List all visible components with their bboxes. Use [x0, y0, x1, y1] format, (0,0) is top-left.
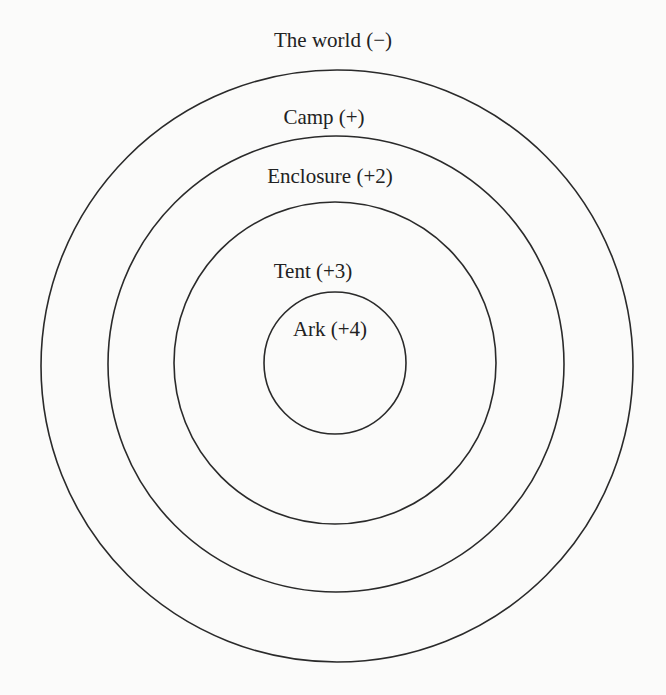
- label-enclosure: Enclosure (+2): [267, 164, 393, 189]
- ring-ark: [264, 292, 406, 434]
- ring-tent: [174, 202, 496, 524]
- label-ark: Ark (+4): [293, 317, 367, 342]
- ring-camp: [41, 70, 633, 662]
- label-tent: Tent (+3): [274, 259, 353, 284]
- label-the-world: The world (−): [274, 28, 392, 53]
- label-camp: Camp (+): [283, 105, 364, 130]
